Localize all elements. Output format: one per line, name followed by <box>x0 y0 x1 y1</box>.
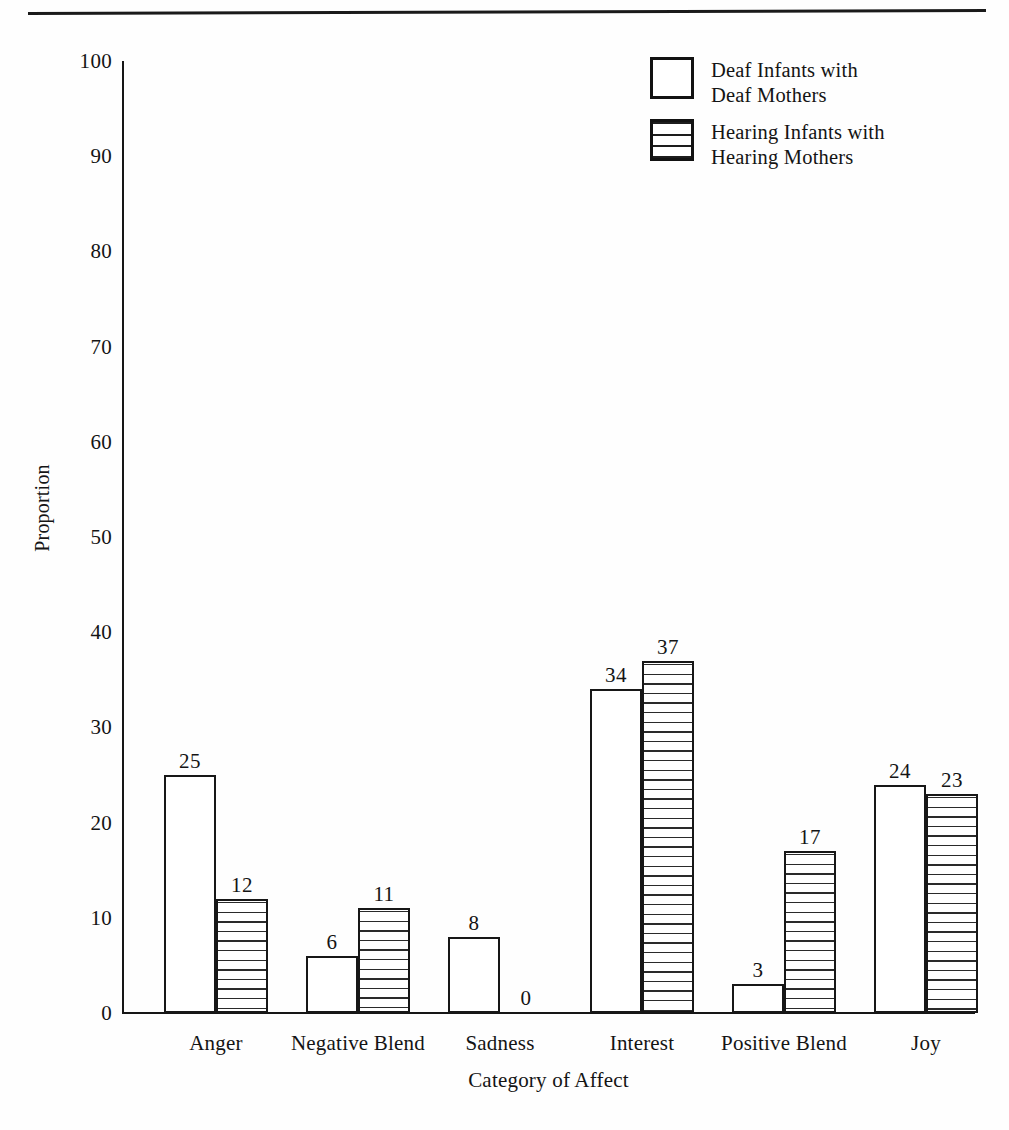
bar-chart-figure: Deaf Infants with Deaf Mothers Hearing I… <box>0 0 1009 1130</box>
bar-deaf: 3 <box>732 984 784 1013</box>
bar-deaf: 34 <box>590 689 642 1013</box>
bar-deaf: 25 <box>164 775 216 1013</box>
y-tick-label: 70 <box>54 337 112 358</box>
bar-deaf: 6 <box>306 956 358 1013</box>
bar-value-label: 37 <box>657 637 679 658</box>
y-tick-label: 60 <box>54 432 112 453</box>
bar-group: 2512 <box>164 61 268 1013</box>
bar-hearing: 17 <box>784 851 836 1013</box>
y-tick-label: 40 <box>54 622 112 643</box>
bar-value-label: 12 <box>231 875 253 896</box>
figure-page: Deaf Infants with Deaf Mothers Hearing I… <box>0 0 1009 1130</box>
x-axis-title: Category of Affect <box>122 1070 975 1091</box>
bar-value-label: 34 <box>605 665 627 686</box>
bar-hearing: 12 <box>216 899 268 1013</box>
bar-group: 2423 <box>874 61 978 1013</box>
x-category-label: Joy <box>816 1032 1009 1054</box>
bar-value-label: 17 <box>799 827 821 848</box>
bar-group: 3437 <box>590 61 694 1013</box>
bar-deaf: 24 <box>874 785 926 1013</box>
y-tick-label: 0 <box>54 1003 112 1024</box>
bar-value-label: 3 <box>753 960 764 981</box>
y-tick-label: 90 <box>54 146 112 167</box>
y-tick-label: 50 <box>54 527 112 548</box>
bar-value-label: 23 <box>941 770 963 791</box>
bar-deaf: 8 <box>448 937 500 1013</box>
y-tick-label: 20 <box>54 813 112 834</box>
bar-hearing: 11 <box>358 908 410 1013</box>
bar-group: 80 <box>448 61 552 1013</box>
bar-value-label: 6 <box>327 932 338 953</box>
bar-value-label: 24 <box>889 761 911 782</box>
y-tick-label: 30 <box>54 717 112 738</box>
bar-value-label: 11 <box>373 884 394 905</box>
y-axis-title: Proportion <box>32 428 52 588</box>
bar-value-label: 25 <box>179 751 201 772</box>
y-tick-label: 10 <box>54 908 112 929</box>
y-tick-label: 80 <box>54 241 112 262</box>
bar-hearing: 23 <box>926 794 978 1013</box>
bar-group: 611 <box>306 61 410 1013</box>
bar-hearing: 37 <box>642 661 694 1013</box>
bar-value-label: 0 <box>521 988 532 1009</box>
bar-group: 317 <box>732 61 836 1013</box>
y-tick-label: 100 <box>54 51 112 72</box>
bar-value-label: 8 <box>469 913 480 934</box>
plot-area: 25126118034373172423 <box>122 61 975 1013</box>
